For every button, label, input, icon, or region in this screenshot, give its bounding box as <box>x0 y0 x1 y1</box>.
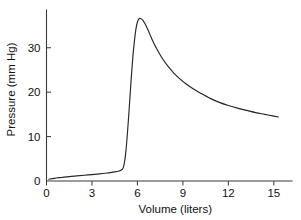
x-tick-label: 12 <box>222 187 235 199</box>
x-tick-label: 9 <box>180 187 186 199</box>
x-tick-label: 3 <box>89 187 95 199</box>
x-tick-label: 15 <box>267 187 280 199</box>
y-tick-label: 10 <box>28 131 41 143</box>
pressure-volume-chart: 0102030 03691215 Volume (liters) Pressur… <box>0 0 301 220</box>
y-tick-label: 0 <box>34 175 40 187</box>
x-axis-title: Volume (liters) <box>139 203 213 215</box>
x-tick-label: 0 <box>43 187 49 199</box>
x-tick-label: 6 <box>134 187 140 199</box>
y-axis-title: Pressure (mm Hg) <box>5 42 17 136</box>
y-tick-label: 20 <box>28 86 41 98</box>
chart-figure: 0102030 03691215 Volume (liters) Pressur… <box>0 0 301 220</box>
y-tick-label: 30 <box>28 42 41 54</box>
